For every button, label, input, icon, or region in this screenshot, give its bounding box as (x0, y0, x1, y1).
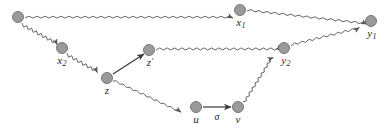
edge-z-to-zprime (113, 54, 144, 74)
node-label-x2: x2 (57, 55, 66, 68)
node-v[interactable] (233, 102, 244, 113)
node-label-u: u (193, 114, 199, 125)
edge-origin-to-x1 (25, 16, 233, 18)
edge-zprime-to-y2 (156, 48, 282, 50)
node-y2[interactable] (279, 43, 290, 54)
node-layer (13, 5, 377, 113)
node-zprime[interactable] (144, 45, 155, 56)
edge-origin-to-x2 (22, 23, 57, 45)
edge-x1-to-y1 (247, 10, 367, 25)
edge-label-sigma: σ (215, 112, 220, 122)
node-x1[interactable] (235, 5, 246, 16)
node-label-z: z (105, 85, 109, 96)
node-y1[interactable] (366, 16, 377, 27)
edge-y2-to-y1 (291, 27, 359, 46)
edge-z-to-u (113, 81, 181, 112)
edge-x2-to-z (67, 53, 97, 73)
node-label-z-prime: z′ (147, 57, 154, 68)
node-label-x1: x1 (236, 17, 245, 30)
edge-v-to-y2 (243, 58, 273, 102)
node-label-y2: y2 (281, 55, 290, 68)
node-u[interactable] (191, 102, 202, 113)
node-x2[interactable] (57, 43, 68, 54)
node-z[interactable] (102, 73, 113, 84)
node-label-y1: y1 (367, 28, 376, 41)
node-origin[interactable] (13, 12, 24, 23)
edge-layer (22, 10, 367, 113)
node-label-v: v (235, 114, 240, 125)
diagram-canvas: x1 y1 x2 z′ y2 z u v σ (0, 0, 388, 134)
